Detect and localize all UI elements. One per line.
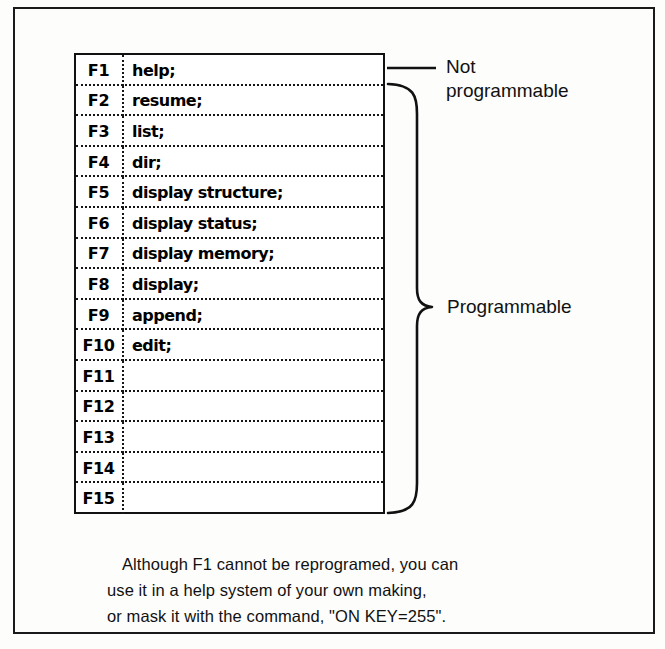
key-label: F11 — [76, 367, 122, 386]
table-row: F7 display memory; — [76, 239, 383, 270]
key-command: edit; — [124, 336, 383, 355]
key-label: F8 — [76, 275, 122, 294]
table-row: F4 dir; — [76, 147, 383, 178]
column-divider — [122, 483, 124, 514]
key-command: display memory; — [124, 244, 383, 263]
not-programmable-label: Not programmable — [446, 55, 569, 103]
column-divider — [122, 422, 124, 453]
table-row: F13 — [76, 422, 383, 453]
key-command: display; — [124, 275, 383, 294]
figure-caption: Although F1 cannot be reprogramed, you c… — [107, 551, 537, 629]
key-command: display structure; — [124, 183, 383, 202]
key-label: F3 — [76, 122, 122, 141]
column-divider — [122, 361, 124, 392]
key-label: F15 — [76, 489, 122, 508]
table-row: F2 resume; — [76, 86, 383, 117]
key-label: F4 — [76, 153, 122, 172]
programmable-label: Programmable — [447, 295, 572, 319]
table-row: F12 — [76, 392, 383, 423]
caption-line-2: use it in a help system of your own maki… — [107, 577, 537, 603]
table-row: F9 append; — [76, 300, 383, 331]
key-label: F14 — [76, 459, 122, 478]
key-label: F9 — [76, 306, 122, 325]
key-command: resume; — [124, 91, 383, 110]
key-label: F13 — [76, 428, 122, 447]
key-label: F6 — [76, 214, 122, 233]
key-label: F2 — [76, 91, 122, 110]
table-row: F3 list; — [76, 116, 383, 147]
key-command: list; — [124, 122, 383, 141]
key-label: F12 — [76, 397, 122, 416]
function-key-figure: F1 help; F2 resume; F3 list; F4 dir; F5 … — [0, 0, 665, 649]
table-row: F8 display; — [76, 269, 383, 300]
key-label: F7 — [76, 244, 122, 263]
key-command: display status; — [124, 214, 383, 233]
key-label: F10 — [76, 336, 122, 355]
column-divider — [122, 453, 124, 484]
table-row: F5 display structure; — [76, 177, 383, 208]
key-command: append; — [124, 306, 383, 325]
table-row: F15 — [76, 483, 383, 514]
key-label: F1 — [76, 61, 122, 80]
table-row: F6 display status; — [76, 208, 383, 239]
table-row: F10 edit; — [76, 330, 383, 361]
caption-line-3: or mask it with the command, "ON KEY=255… — [107, 603, 537, 629]
caption-line-1: Although F1 cannot be reprogramed, you c… — [107, 551, 537, 577]
function-key-table: F1 help; F2 resume; F3 list; F4 dir; F5 … — [74, 53, 385, 514]
key-command: help; — [124, 61, 383, 80]
table-row: F14 — [76, 453, 383, 484]
table-row: F11 — [76, 361, 383, 392]
column-divider — [122, 392, 124, 423]
table-row: F1 help; — [76, 55, 383, 86]
key-command: dir; — [124, 153, 383, 172]
key-label: F5 — [76, 183, 122, 202]
